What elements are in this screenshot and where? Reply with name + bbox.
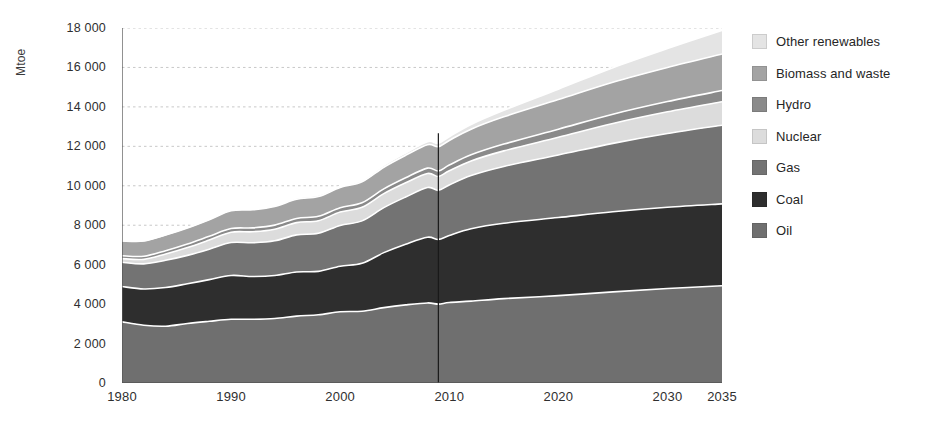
legend-swatch-icon: [752, 66, 767, 81]
y-axis-tick-label: 2 000: [40, 337, 106, 351]
chart-legend: Other renewablesBiomass and wasteHydroNu…: [752, 26, 932, 247]
plot-svg: [122, 28, 722, 383]
y-axis-tick-labels: 02 0004 0006 0008 00010 00012 00014 0001…: [38, 0, 106, 430]
legend-item-label: Nuclear: [776, 129, 822, 144]
x-axis-tick-label: 1990: [216, 389, 246, 404]
y-axis-tick-label: 14 000: [40, 100, 106, 114]
legend-swatch-icon: [752, 223, 767, 238]
legend-item-label: Biomass and waste: [776, 66, 890, 81]
legend-swatch-icon: [752, 97, 767, 112]
legend-item-label: Gas: [776, 160, 800, 175]
legend-swatch-icon: [752, 34, 767, 49]
legend-item[interactable]: Gas: [752, 152, 932, 184]
legend-item[interactable]: Coal: [752, 184, 932, 216]
y-axis-tick-label: 6 000: [40, 258, 106, 272]
x-axis-tick-label: 2020: [543, 389, 573, 404]
y-axis-tick-label: 18 000: [40, 21, 106, 35]
legend-item-label: Other renewables: [776, 34, 880, 49]
legend-swatch-icon: [752, 129, 767, 144]
x-axis-tick-label: 2035: [707, 389, 737, 404]
y-axis-tick-label: 8 000: [40, 218, 106, 232]
plot-area: [122, 28, 722, 383]
legend-item[interactable]: Oil: [752, 215, 932, 247]
x-axis-tick-label: 2030: [653, 389, 683, 404]
x-axis-tick-label: 2010: [434, 389, 464, 404]
legend-item-label: Coal: [776, 192, 803, 207]
y-axis-tick-label: 12 000: [40, 139, 106, 153]
y-axis-unit-text: Mtoe: [14, 49, 28, 76]
legend-item-label: Oil: [776, 223, 792, 238]
legend-item[interactable]: Other renewables: [752, 26, 932, 58]
y-axis-tick-label: 16 000: [40, 60, 106, 74]
y-axis-unit-label: Mtoe: [14, 3, 28, 30]
y-axis-tick-label: 4 000: [40, 297, 106, 311]
y-axis-tick-label: 0: [40, 376, 106, 390]
legend-item-label: Hydro: [776, 97, 811, 112]
x-axis-tick-label: 1980: [107, 389, 137, 404]
x-axis-tick-labels: 1980199020002010202020302035: [0, 389, 935, 417]
legend-swatch-icon: [752, 160, 767, 175]
energy-mix-stacked-area-chart: Mtoe 02 0004 0006 0008 00010 00012 00014…: [0, 0, 935, 430]
y-axis-tick-label: 10 000: [40, 179, 106, 193]
legend-item[interactable]: Nuclear: [752, 121, 932, 153]
legend-item[interactable]: Biomass and waste: [752, 58, 932, 90]
legend-item[interactable]: Hydro: [752, 89, 932, 121]
legend-swatch-icon: [752, 192, 767, 207]
x-axis-tick-label: 2000: [325, 389, 355, 404]
